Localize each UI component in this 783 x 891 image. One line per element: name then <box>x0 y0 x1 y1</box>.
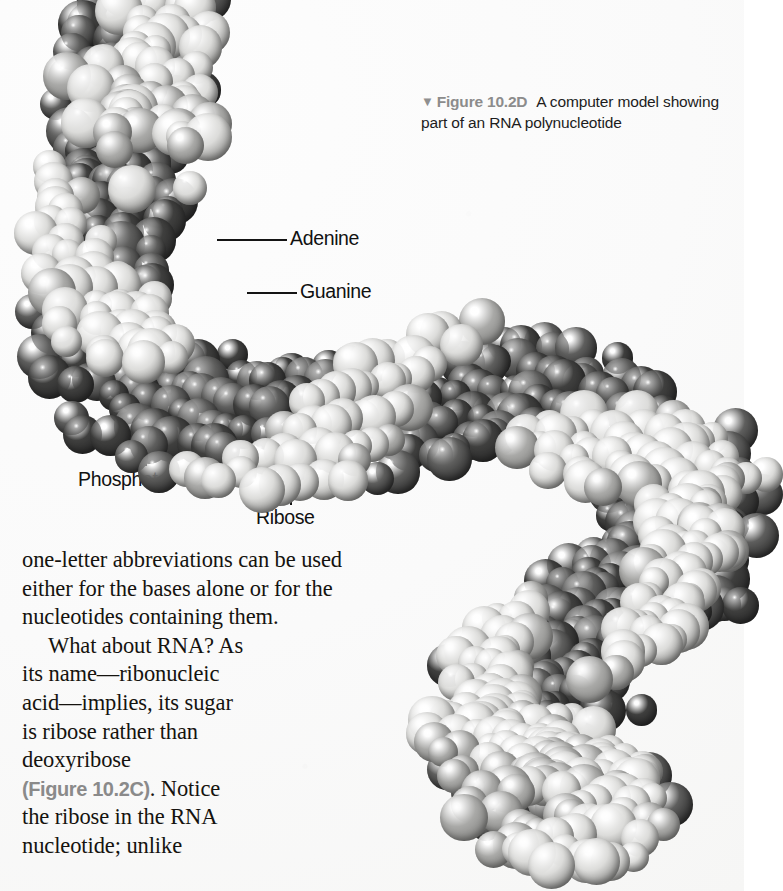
atom-sphere <box>328 460 368 500</box>
atom-sphere <box>427 437 472 482</box>
atom-sphere <box>167 127 204 164</box>
atom-sphere <box>626 694 657 725</box>
atom-sphere <box>722 587 759 624</box>
atom-sphere <box>122 340 165 383</box>
leader-line-adenine <box>217 239 287 241</box>
body-line-7: is ribose rather than <box>22 719 198 744</box>
body-line-3: nucleotides containing them. <box>22 604 279 629</box>
callout-label-adenine: Adenine <box>290 229 359 249</box>
atom-sphere <box>528 842 575 889</box>
leader-line-guanine <box>247 292 297 294</box>
callout-label-guanine: Guanine <box>300 282 371 302</box>
atom-sphere <box>529 452 567 490</box>
atom-sphere <box>108 165 156 213</box>
figure-number: Figure 10.2D <box>437 93 528 110</box>
body-line-2: either for the bases alone or for the <box>22 576 333 601</box>
atom-sphere <box>440 794 487 841</box>
figure-cross-reference[interactable]: (Figure 10.2C) <box>22 778 150 800</box>
body-line-11: nucleotide; unlike <box>22 833 182 858</box>
figure-caption: ▼Figure 10.2DA computer model showing pa… <box>421 92 739 134</box>
body-line-6: acid—implies, its sugar <box>22 690 233 715</box>
atom-sphere <box>96 131 133 168</box>
atom-sphere <box>173 171 207 205</box>
atom-sphere <box>573 838 620 885</box>
body-line-1: one-letter abbreviations can be used <box>22 547 342 572</box>
body-line-5: its name—ribonucleic <box>22 661 219 686</box>
atom-sphere <box>584 468 622 506</box>
body-line-8: deoxyribose <box>22 747 131 772</box>
body-line-4: What about RNA? As <box>48 633 243 658</box>
body-text-column: one-letter abbreviations can be used eit… <box>22 546 370 861</box>
body-line-10: the ribose in the RNA <box>22 804 217 829</box>
down-triangle-icon: ▼ <box>421 93 434 110</box>
body-line-9: . Notice <box>150 776 220 801</box>
atom-sphere <box>51 326 82 357</box>
atom-sphere <box>201 463 236 498</box>
